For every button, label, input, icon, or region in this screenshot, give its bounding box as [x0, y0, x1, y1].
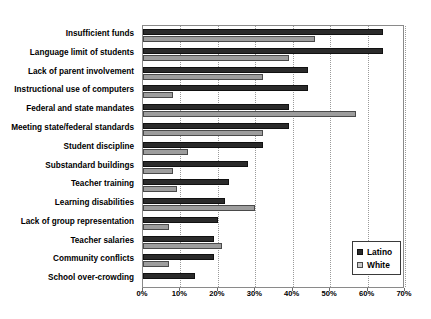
bar-latino	[143, 123, 289, 129]
bar-chart-figure: Insufficient fundsLanguage limit of stud…	[0, 0, 431, 319]
bar-row	[143, 64, 403, 83]
category-axis-labels: Insufficient fundsLanguage limit of stud…	[0, 25, 138, 288]
bar-latino	[143, 236, 214, 242]
bar-row	[143, 176, 403, 195]
bar-latino	[143, 142, 263, 148]
category-label: Lack of group representation	[21, 213, 134, 232]
bar-row	[143, 120, 403, 139]
x-tick-label: 40%	[284, 289, 299, 298]
bar-latino	[143, 48, 383, 54]
bar-white	[143, 55, 289, 61]
legend-item-latino: Latino	[357, 245, 400, 258]
bar-row	[143, 139, 403, 158]
category-label: Language limit of students	[30, 44, 134, 63]
category-label: Learning disabilities	[55, 194, 134, 213]
bar-row	[143, 195, 403, 214]
bar-white	[143, 205, 255, 211]
category-label: Meeting state/federal standards	[11, 119, 134, 138]
value-axis-labels: 0%10%20%30%40%50%60%70%	[0, 289, 431, 303]
gridline-70	[405, 26, 406, 287]
bar-latino	[143, 217, 218, 223]
legend-item-white: White	[357, 258, 400, 271]
legend-label-latino: Latino	[367, 247, 392, 257]
bar-latino	[143, 85, 308, 91]
bar-latino	[143, 198, 225, 204]
bar-white	[143, 243, 222, 249]
bar-row	[143, 101, 403, 120]
bar-latino	[143, 104, 289, 110]
category-label: Teacher salaries	[70, 232, 134, 251]
chart-legend: Latino White	[352, 241, 401, 275]
bar-latino	[143, 179, 229, 185]
light-square-swatch-icon	[357, 262, 363, 268]
x-tick-label: 10%	[172, 289, 187, 298]
x-tick-label: 30%	[247, 289, 262, 298]
category-label: Instructional use of computers	[14, 81, 134, 100]
bar-latino	[143, 29, 383, 35]
bar-row	[143, 214, 403, 233]
x-tick-label: 0%	[137, 289, 148, 298]
bar-white	[143, 224, 169, 230]
bar-white	[143, 36, 315, 42]
bar-latino	[143, 254, 214, 260]
x-tick-label: 20%	[209, 289, 224, 298]
category-label: Student discipline	[63, 138, 134, 157]
x-tick-label: 50%	[322, 289, 337, 298]
bar-white	[143, 168, 173, 174]
bar-white	[143, 74, 263, 80]
category-label: Teacher training	[71, 175, 134, 194]
category-label: Lack of parent involvement	[28, 63, 134, 82]
bar-white	[143, 149, 188, 155]
category-label: Substandard buildings	[45, 157, 134, 176]
bar-white	[143, 186, 177, 192]
bar-latino	[143, 273, 195, 279]
category-label: Insufficient funds	[66, 25, 134, 44]
x-tick-label: 70%	[396, 289, 411, 298]
bar-row	[143, 45, 403, 64]
category-label: Community conflicts	[53, 250, 134, 269]
x-tick-label: 60%	[359, 289, 374, 298]
category-label: Federal and state mandates	[26, 100, 134, 119]
bar-row	[143, 158, 403, 177]
category-label: School over-crowding	[48, 269, 134, 288]
legend-label-white: White	[367, 260, 390, 270]
bar-row	[143, 82, 403, 101]
bar-white	[143, 130, 263, 136]
bar-latino	[143, 161, 248, 167]
bar-latino	[143, 67, 308, 73]
bar-white	[143, 261, 169, 267]
bar-white	[143, 111, 356, 117]
bar-row	[143, 26, 403, 45]
dark-square-swatch-icon	[357, 249, 363, 255]
bar-white	[143, 92, 173, 98]
